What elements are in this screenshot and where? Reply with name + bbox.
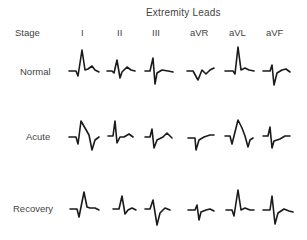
recovery-lead-iii-trace — [145, 200, 170, 225]
acute-row-waveforms — [69, 120, 290, 150]
recovery-lead-ii-trace — [113, 196, 136, 214]
normal-lead-avr-trace — [187, 68, 214, 80]
recovery-lead-avr-trace — [188, 205, 214, 220]
normal-lead-iii-trace — [145, 58, 173, 84]
normal-lead-avf-trace — [263, 65, 290, 85]
ecg-waveforms — [0, 0, 307, 240]
normal-lead-avl-trace — [225, 47, 254, 74]
normal-lead-ii-trace — [107, 60, 135, 78]
acute-lead-i-trace — [69, 121, 99, 150]
normal-row-waveforms — [69, 47, 290, 85]
acute-lead-avr-trace — [188, 135, 214, 150]
recovery-lead-i-trace — [70, 192, 99, 217]
acute-lead-avf-trace — [263, 127, 290, 148]
acute-lead-iii-trace — [145, 129, 172, 148]
recovery-row-waveforms — [70, 190, 293, 225]
acute-lead-ii-trace — [108, 121, 133, 143]
acute-lead-avl-trace — [225, 120, 253, 147]
recovery-lead-avl-trace — [226, 190, 254, 216]
normal-lead-i-trace — [69, 50, 99, 76]
recovery-lead-avf-trace — [263, 196, 293, 224]
